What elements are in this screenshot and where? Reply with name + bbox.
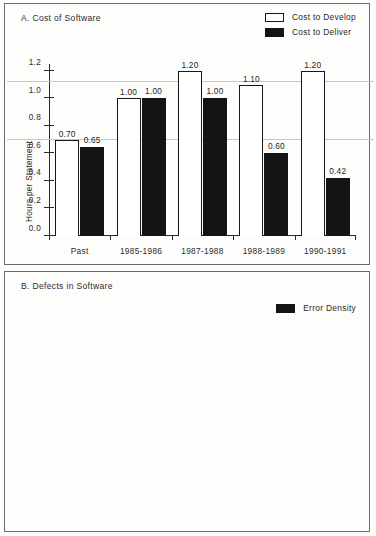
bar-value-label: 1.20: [304, 60, 321, 70]
legend-swatch-filled-icon: [265, 28, 284, 37]
bar: 1.00: [142, 98, 166, 236]
bar-value-label: 1.20: [182, 60, 199, 70]
bar-value-label: 0.42: [329, 166, 346, 176]
legend-b: Error Density: [276, 302, 356, 317]
legend-label-cost-to-deliver: Cost to Deliver: [292, 27, 351, 37]
bar-value-label: 0.60: [268, 141, 285, 151]
x-axis-tick: [49, 236, 50, 240]
x-axis-category-label: 1985-1986: [120, 246, 162, 256]
legend-swatch-filled-icon: [276, 304, 295, 313]
chart-panel-b: B. Defects in Software Error Density Def…: [4, 271, 370, 532]
category-group: 0.700.65Past: [49, 64, 110, 236]
category-group: 1.201.001987-1988: [172, 64, 233, 236]
y-axis-tick-label: 1.2: [29, 58, 41, 67]
category-group: 1.200.421990-1991: [295, 64, 356, 236]
category-group: 1.001.001985-1986: [110, 64, 171, 236]
x-axis-tick: [233, 236, 234, 240]
legend-label-cost-to-develop: Cost to Develop: [292, 12, 356, 22]
bar: 1.10: [239, 85, 263, 236]
chart-panel-a: A. Cost of Software Cost to Develop Cost…: [4, 3, 370, 265]
bar: 0.65: [80, 147, 104, 236]
bar: 0.60: [264, 153, 288, 236]
legend-item-cost-to-deliver: Cost to Deliver: [265, 26, 356, 38]
bar-value-label: 1.10: [243, 74, 260, 84]
bar: 1.20: [178, 71, 202, 236]
panel-a-title: A. Cost of Software: [21, 13, 101, 23]
bar-value-label: 0.65: [84, 135, 101, 145]
bar: 0.70: [55, 140, 79, 236]
panel-a-plot-area: 0.00.20.40.60.81.01.20.700.65Past1.001.0…: [49, 64, 356, 236]
x-axis-tick: [172, 236, 173, 240]
bar: 1.00: [203, 98, 227, 236]
legend-item-cost-to-develop: Cost to Develop: [265, 11, 356, 23]
category-group: 1.100.601988-1989: [233, 64, 294, 236]
figure-root: A. Cost of Software Cost to Develop Cost…: [0, 0, 376, 536]
bar-value-label: 1.00: [120, 87, 137, 97]
bar: 0.42: [326, 178, 350, 236]
bar: 1.20: [301, 71, 325, 236]
x-axis-category-label: 1990-1991: [304, 246, 346, 256]
x-axis-category-label: Past: [71, 246, 89, 256]
x-axis-tick: [295, 236, 296, 240]
legend-swatch-open-icon: [265, 13, 284, 22]
y-axis-tick-label: 0.4: [29, 168, 41, 177]
panel-b-title: B. Defects in Software: [21, 281, 113, 291]
bar-value-label: 0.70: [59, 129, 76, 139]
x-axis-category-label: 1987-1988: [181, 246, 223, 256]
legend-label-error-density: Error Density: [303, 303, 356, 313]
y-axis-tick-label: 0.6: [29, 140, 41, 149]
y-axis-tick-label: 0.8: [29, 113, 41, 122]
legend-item-error-density: Error Density: [276, 302, 356, 314]
legend-a: Cost to Develop Cost to Deliver: [265, 11, 356, 41]
bar: 1.00: [117, 98, 141, 236]
x-axis-tick: [110, 236, 111, 240]
y-axis-tick-label: 0.2: [29, 195, 41, 204]
y-axis-tick-label: 1.0: [29, 85, 41, 94]
panel-a-y-axis-label: Hours per Statement: [25, 141, 34, 222]
x-axis-tick: [355, 236, 356, 240]
y-axis-tick-label: 0.0: [29, 223, 41, 232]
x-axis-category-label: 1988-1989: [243, 246, 285, 256]
bar-value-label: 1.00: [145, 86, 162, 96]
bar-value-label: 1.00: [207, 86, 224, 96]
